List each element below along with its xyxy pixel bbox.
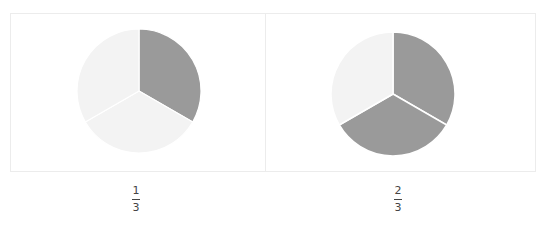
fraction-bar bbox=[394, 199, 402, 200]
pie-chart-two-thirds bbox=[331, 32, 455, 156]
pie-chart-one-third bbox=[77, 29, 201, 153]
fraction-numerator: 1 bbox=[133, 184, 140, 197]
fraction-bar bbox=[132, 199, 140, 200]
fraction-numerator: 2 bbox=[395, 184, 402, 197]
fraction-label-one-third: 1 3 bbox=[121, 185, 151, 214]
fraction-denominator: 3 bbox=[395, 201, 402, 214]
fraction-denominator: 3 bbox=[133, 201, 140, 214]
fraction-label-two-thirds: 2 3 bbox=[383, 185, 413, 214]
